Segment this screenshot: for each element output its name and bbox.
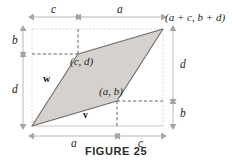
vertex-label-v: (a, b) [99, 86, 123, 97]
figure-25-container: (a + c, b + d) (c, d) (a, b) w v c a a c… [0, 0, 232, 168]
vertex-label-w: (c, d) [70, 56, 93, 67]
figure-diagram [0, 0, 232, 168]
vertex-label-sum: (a + c, b + d) [165, 12, 225, 23]
parallelogram-shape [32, 29, 163, 126]
figure-caption: FIGURE 25 [0, 146, 232, 157]
dimension-label-top-a: a [117, 4, 123, 16]
vector-label-w: w [43, 74, 50, 84]
vector-label-v: v [83, 110, 88, 120]
dimension-label-left-d: d [12, 84, 18, 96]
dimension-label-right-b: b [180, 108, 186, 120]
dimension-label-right-d: d [180, 59, 186, 71]
dimension-label-left-b: b [12, 35, 18, 47]
dimension-label-top-c: c [51, 4, 56, 16]
